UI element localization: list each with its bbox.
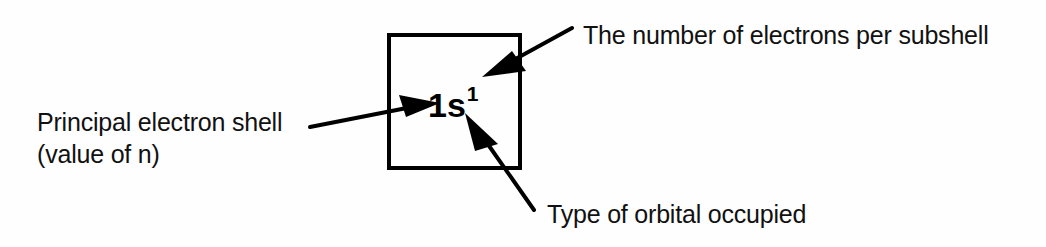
label-principal-electron-shell: Principal electron shell	[37, 107, 282, 138]
orbital-notation-text: 1s1	[428, 86, 478, 125]
notation-base: 1s	[428, 86, 466, 124]
label-principal-electron-shell-subtext: (value of n)	[37, 139, 160, 170]
callout-principal-shell	[310, 95, 440, 127]
notation-superscript: 1	[467, 82, 479, 105]
orbital-type-leader-line	[487, 143, 534, 210]
callout-orbital-type	[465, 113, 534, 210]
label-orbital-type: Type of orbital occupied	[547, 199, 806, 230]
principal-shell-leader-line	[310, 106, 417, 127]
electron-configuration-diagram: 1s1 Principal electron shell (value of n…	[0, 0, 1046, 247]
label-electrons-per-subshell: The number of electrons per subshell	[583, 20, 989, 51]
